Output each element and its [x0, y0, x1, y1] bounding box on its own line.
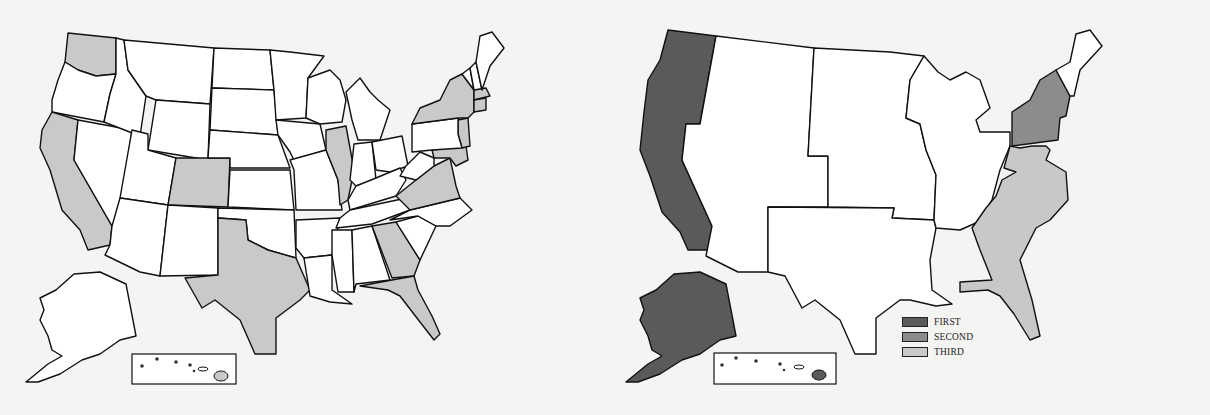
state-mi: [346, 78, 390, 140]
state-nd: [212, 48, 274, 90]
legend-item-second: SECOND: [902, 329, 973, 344]
figure: FIRST SECOND THIRD: [0, 0, 1210, 415]
state-nm: [160, 205, 218, 276]
hawaii-big-island: [812, 370, 826, 380]
state-ny: [412, 74, 474, 124]
swatch-second: [902, 332, 928, 342]
state-ks: [228, 170, 294, 210]
swatch-third: [902, 347, 928, 357]
state-ms: [332, 230, 354, 292]
state-wi: [306, 70, 346, 124]
us-map-states: [0, 0, 600, 415]
legend-label: THIRD: [934, 347, 964, 357]
state-me: [476, 32, 504, 90]
state-oh: [372, 136, 408, 172]
swatch-first: [902, 317, 928, 327]
state-sd: [210, 88, 278, 135]
state-fl: [360, 276, 440, 340]
state-ct: [474, 98, 486, 112]
state-ak: [26, 272, 136, 382]
legend-item-first: FIRST: [902, 314, 973, 329]
legend: FIRST SECOND THIRD: [902, 314, 973, 359]
region-northeast: [1012, 70, 1070, 146]
hawaii-big-island: [214, 371, 228, 381]
legend-label: FIRST: [934, 317, 961, 327]
legend-item-third: THIRD: [902, 344, 973, 359]
state-wy: [148, 100, 210, 160]
state-co: [168, 158, 230, 207]
legend-label: SECOND: [934, 332, 973, 342]
